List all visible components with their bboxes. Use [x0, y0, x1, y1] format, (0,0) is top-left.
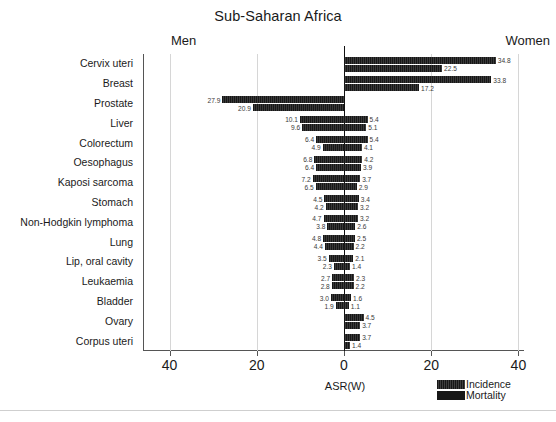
- value-label-men-mortality: 3.8: [316, 223, 325, 230]
- x-tick-mark: [518, 351, 519, 356]
- value-label-men-incidence: 6.8: [303, 156, 312, 163]
- bar-men-mortality: [316, 183, 344, 190]
- value-label-men-incidence: 3.5: [318, 255, 327, 262]
- bar-women-mortality: [344, 124, 366, 131]
- bar-men-incidence: [222, 96, 344, 103]
- bar-men-mortality: [336, 302, 344, 309]
- bar-women-mortality: [344, 203, 358, 210]
- x-tick-mark: [170, 351, 171, 356]
- bar-row: 7.23.76.52.9: [143, 173, 524, 193]
- bar-women-incidence: [344, 274, 354, 281]
- value-label-women-incidence: 33.8: [493, 77, 506, 84]
- category-label: Ovary: [105, 315, 133, 327]
- x-tick-mark: [257, 351, 258, 356]
- bar-women-mortality: [344, 84, 419, 91]
- x-tick-mark: [431, 351, 432, 356]
- bar-women-incidence: [344, 294, 351, 301]
- value-label-women-mortality: 1.4: [352, 342, 361, 349]
- x-tick-mark: [344, 351, 345, 356]
- bar-men-mortality: [316, 164, 344, 171]
- value-label-men-incidence: 4.7: [312, 215, 321, 222]
- bar-women-mortality: [344, 223, 355, 230]
- bar-row: 4.73.23.82.6: [143, 212, 524, 232]
- value-label-men-incidence: 4.5: [313, 196, 322, 203]
- value-label-women-mortality: 22.5: [444, 65, 457, 72]
- value-label-women-incidence: 3.2: [360, 215, 369, 222]
- value-label-women-mortality: 2.9: [359, 184, 368, 191]
- legend-item-mortality: Mortality: [437, 390, 552, 401]
- category-label: Breast: [103, 77, 133, 89]
- legend-swatch-incidence: [437, 380, 465, 389]
- bar-women-incidence: [344, 334, 360, 341]
- bar-women-incidence: [344, 195, 359, 202]
- bar-row: 4.82.54.42.2: [143, 232, 524, 252]
- bar-women-incidence: [344, 255, 353, 262]
- bar-row: 4.53.7: [143, 311, 524, 331]
- value-label-men-mortality: 4.2: [315, 204, 324, 211]
- category-label: Lung: [110, 236, 133, 248]
- panel-label-women: Women: [505, 33, 550, 48]
- bar-men-incidence: [300, 116, 344, 123]
- legend-swatch-mortality: [437, 391, 465, 400]
- value-label-women-incidence: 34.8: [498, 57, 511, 64]
- bar-men-mortality: [253, 104, 344, 111]
- x-tick-label: 40: [162, 357, 178, 373]
- bar-row: 3.01.61.91.1: [143, 292, 524, 312]
- value-label-men-mortality: 2.8: [321, 283, 330, 290]
- category-label: Bladder: [97, 295, 133, 307]
- bar-men-incidence: [324, 195, 344, 202]
- value-label-men-incidence: 6.4: [305, 136, 314, 143]
- bar-men-incidence: [316, 136, 344, 143]
- category-axis-labels: Cervix uteriBreastProstateLiverColorectu…: [0, 54, 138, 351]
- value-label-women-mortality: 1.1: [351, 303, 360, 310]
- bar-row: 2.72.32.82.2: [143, 272, 524, 292]
- value-label-women-incidence: 3.7: [362, 176, 371, 183]
- value-label-men-mortality: 1.9: [325, 303, 334, 310]
- bar-men-incidence: [331, 294, 344, 301]
- bar-women-incidence: [344, 175, 360, 182]
- category-label: Lip, oral cavity: [66, 255, 133, 267]
- value-label-women-incidence: 2.5: [357, 235, 366, 242]
- bar-women-mortality: [344, 282, 354, 289]
- value-label-women-mortality: 1.4: [352, 263, 361, 270]
- value-label-women-mortality: 17.2: [421, 85, 434, 92]
- footer-divider: [0, 410, 556, 411]
- panel-label-men: Men: [171, 33, 196, 48]
- bar-men-incidence: [313, 175, 344, 182]
- bar-women-mortality: [344, 183, 357, 190]
- bar-row: 34.822.5: [143, 54, 524, 74]
- bar-men-incidence: [324, 215, 344, 222]
- category-label: Corpus uteri: [76, 335, 133, 347]
- bar-row: 3.52.12.31.4: [143, 252, 524, 272]
- value-label-women-incidence: 3.4: [361, 196, 370, 203]
- bar-women-incidence: [344, 136, 368, 143]
- bar-women-incidence: [344, 57, 496, 64]
- bar-men-mortality: [325, 243, 344, 250]
- bar-women-incidence: [344, 156, 362, 163]
- value-label-men-incidence: 2.7: [321, 275, 330, 282]
- x-tick-label: 0: [340, 357, 348, 373]
- value-label-women-incidence: 4.5: [366, 314, 375, 321]
- value-label-women-mortality: 3.7: [362, 322, 371, 329]
- value-label-men-mortality: 4.9: [311, 144, 320, 151]
- bar-women-mortality: [344, 65, 442, 72]
- chart-legend: Incidence Mortality: [437, 379, 552, 401]
- value-label-women-incidence: 3.7: [362, 334, 371, 341]
- bar-men-mortality: [302, 124, 344, 131]
- category-label: Prostate: [94, 97, 133, 109]
- value-label-women-mortality: 2.2: [356, 243, 365, 250]
- value-label-women-incidence: 5.4: [370, 116, 379, 123]
- bar-women-mortality: [344, 144, 362, 151]
- value-label-men-incidence: 27.9: [208, 97, 221, 104]
- category-label: Kaposi sarcoma: [58, 176, 133, 188]
- value-label-men-mortality: 2.3: [323, 263, 332, 270]
- value-label-women-mortality: 4.1: [364, 144, 373, 151]
- x-tick-label: 20: [423, 357, 439, 373]
- bar-women-incidence: [344, 215, 358, 222]
- x-axis-title: ASR(W): [300, 380, 390, 392]
- value-label-men-mortality: 4.4: [314, 243, 323, 250]
- value-label-women-mortality: 3.9: [363, 164, 372, 171]
- value-label-women-mortality: 5.1: [368, 124, 377, 131]
- value-label-men-mortality: 20.9: [238, 105, 251, 112]
- bar-women-mortality: [344, 302, 349, 309]
